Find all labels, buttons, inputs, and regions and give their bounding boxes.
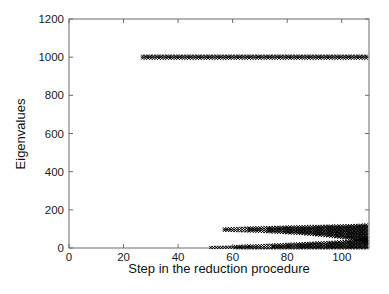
- y-axis-label: Eigenvalues: [14, 20, 28, 249]
- y-tick-label-200: 200: [45, 204, 64, 216]
- x-axis-label: Step in the reduction procedure: [69, 262, 369, 276]
- eigenvalues-plot: 020406080100020040060080010001200: [0, 0, 389, 294]
- y-tick-label-0: 0: [58, 242, 64, 254]
- eigenvalues-figure: 020406080100020040060080010001200 Step i…: [0, 0, 389, 294]
- y-tick-label-1200: 1200: [38, 13, 64, 25]
- y-tick-label-800: 800: [45, 89, 64, 101]
- plot-frame: [69, 19, 369, 248]
- y-tick-label-600: 600: [45, 128, 64, 140]
- y-tick-label-1000: 1000: [38, 51, 64, 63]
- series-cluster-near-1000-markers: [141, 55, 368, 60]
- y-tick-label-400: 400: [45, 166, 64, 178]
